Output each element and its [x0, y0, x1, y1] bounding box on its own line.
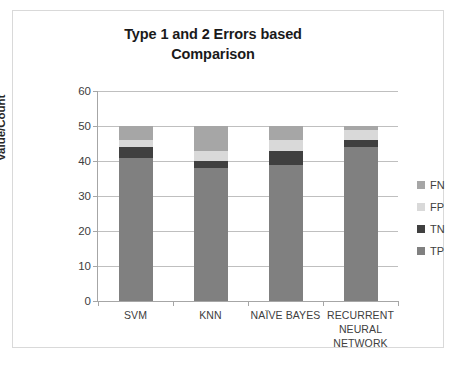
legend-label: FP	[430, 201, 444, 213]
plot-area	[98, 91, 398, 301]
y-tick-label-40: 40	[78, 155, 91, 167]
y-axis-title: Value/Count	[0, 95, 7, 161]
bar-segment-fp[interactable]	[344, 130, 378, 141]
legend-item-tp[interactable]: TP	[417, 240, 458, 262]
legend-swatch-icon	[417, 247, 425, 255]
x-tick-2	[248, 301, 249, 306]
bar-segment-fn[interactable]	[119, 126, 153, 140]
y-tick-label-60: 60	[78, 85, 91, 97]
y-tick-30	[93, 196, 98, 197]
chart-title: Type 1 and 2 Errors based Comparison	[63, 25, 363, 64]
legend-item-fp[interactable]: FP	[417, 196, 458, 218]
x-category-label-line: NAÏVE BAYES	[243, 308, 329, 322]
legend-label: FN	[430, 179, 445, 191]
y-tick-60	[93, 91, 98, 92]
bar-segment-fn[interactable]	[344, 126, 378, 130]
x-category-label: SVM	[93, 308, 179, 322]
bar-segment-tn[interactable]	[194, 161, 228, 168]
x-category-label-line: SVM	[93, 308, 179, 322]
chart-title-line-1: Type 1 and 2 Errors based	[63, 25, 363, 45]
legend-swatch-icon	[417, 203, 425, 211]
bar-group[interactable]	[344, 91, 378, 301]
bar-segment-tn[interactable]	[344, 140, 378, 147]
bar-segment-fp[interactable]	[119, 140, 153, 147]
legend-label: TP	[430, 245, 444, 257]
bar-group[interactable]	[119, 91, 153, 301]
y-tick-50	[93, 126, 98, 127]
x-tick-3	[323, 301, 324, 306]
chart-title-line-2: Comparison	[63, 45, 363, 65]
x-category-label-line: KNN	[168, 308, 254, 322]
chart-frame: Type 1 and 2 Errors based Comparison Val…	[12, 10, 444, 348]
bar-segment-fn[interactable]	[269, 126, 303, 140]
y-tick-20	[93, 231, 98, 232]
bar-segment-fp[interactable]	[269, 140, 303, 151]
bar-segment-tp[interactable]	[269, 165, 303, 302]
y-tick-label-20: 20	[78, 225, 91, 237]
legend-swatch-icon	[417, 181, 425, 189]
x-tick-1	[173, 301, 174, 306]
bar-segment-tp[interactable]	[119, 158, 153, 302]
legend-item-fn[interactable]: FN	[417, 174, 458, 196]
x-category-label: NAÏVE BAYES	[243, 308, 329, 322]
x-category-label-line: RECURRENT	[318, 308, 404, 322]
y-tick-10	[93, 266, 98, 267]
x-tick-0	[98, 301, 99, 306]
x-category-label: RECURRENTNEURALNETWORK	[318, 308, 404, 351]
y-tick-label-50: 50	[78, 120, 91, 132]
y-axis-tick-labels: 0102030405060	[65, 91, 91, 301]
legend-item-tn[interactable]: TN	[417, 218, 458, 240]
x-category-label-line: NETWORK	[318, 336, 404, 350]
bar-segment-fn[interactable]	[194, 126, 228, 151]
bar-segment-tn[interactable]	[119, 147, 153, 158]
x-category-label: KNN	[168, 308, 254, 322]
y-tick-label-30: 30	[78, 190, 91, 202]
legend: FNFPTNTP	[417, 174, 458, 262]
bar-group[interactable]	[194, 91, 228, 301]
y-tick-label-0: 0	[85, 295, 91, 307]
bar-segment-tn[interactable]	[269, 151, 303, 165]
legend-label: TN	[430, 223, 445, 235]
bar-segment-fp[interactable]	[194, 151, 228, 162]
legend-swatch-icon	[417, 225, 425, 233]
bar-segment-tp[interactable]	[344, 147, 378, 301]
y-tick-label-10: 10	[78, 260, 91, 272]
bar-group[interactable]	[269, 91, 303, 301]
bar-segment-tp[interactable]	[194, 168, 228, 301]
y-tick-40	[93, 161, 98, 162]
x-category-label-line: NEURAL	[318, 322, 404, 336]
x-tick-4	[398, 301, 399, 306]
